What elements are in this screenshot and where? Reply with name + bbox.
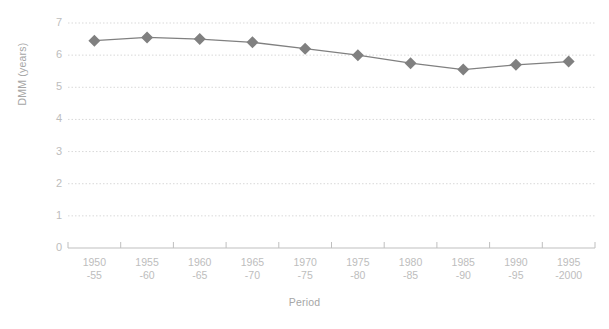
data-series-dmm: 1950-55: 6.451955-60: 6.551960-65: 6.519… [88, 31, 574, 75]
series-line [94, 37, 568, 69]
chart-container: DMM (years) Period 01234567 1950-551955-… [0, 0, 609, 329]
data-point-marker: 1995-2000: 5.8 [563, 56, 575, 68]
data-point-marker: 1990-95: 5.7 [510, 59, 522, 71]
data-point-marker: 1980-85: 5.75 [405, 57, 417, 69]
data-point-marker: 1960-65: 6.5 [194, 33, 206, 45]
axis-lines [68, 242, 595, 248]
data-point-marker: 1965-70: 6.4 [246, 36, 258, 48]
data-point-marker: 1985-90: 5.55 [457, 64, 469, 76]
data-point-marker: 1950-55: 6.45 [88, 35, 100, 47]
data-point-marker: 1975-80: 6 [352, 49, 364, 61]
data-point-marker: 1970-75: 6.2 [299, 43, 311, 55]
data-point-marker: 1955-60: 6.55 [141, 31, 153, 43]
plot-area: 1950-55: 6.451955-60: 6.551960-65: 6.519… [0, 0, 609, 329]
